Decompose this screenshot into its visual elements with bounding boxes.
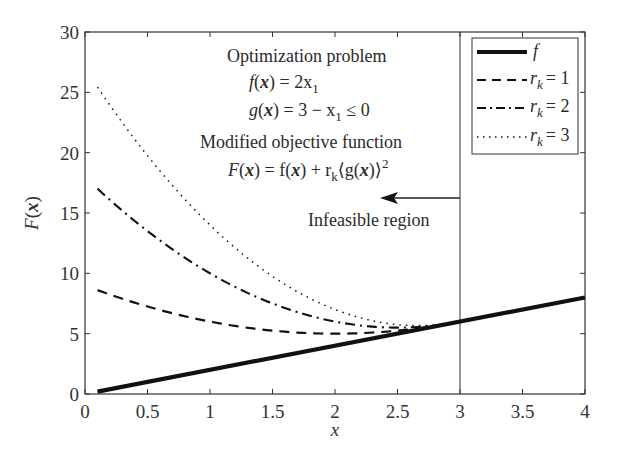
x-tick-label: 1 — [205, 401, 215, 422]
annotation-title: Optimization problem — [227, 46, 386, 66]
x-tick-label: 0 — [80, 401, 90, 422]
annotation-F-equation: F(x) = f(x) + rk⟨g(x)⟩2 — [227, 156, 388, 184]
chart: 00.511.522.533.54 051015202530 x F(x) Op… — [0, 0, 619, 453]
annotation-modified-title: Modified objective function — [200, 132, 402, 152]
y-tick-labels: 051015202530 — [60, 22, 79, 405]
y-tick-label: 10 — [60, 263, 79, 284]
annotation-f-equation: f(x) = 2x1 — [249, 72, 319, 96]
y-tick-label: 25 — [60, 82, 79, 103]
x-tick-label: 1.5 — [261, 401, 285, 422]
y-axis-label: F(x) — [21, 196, 43, 231]
y-axis-label-F: F — [21, 218, 42, 231]
y-tick-label: 0 — [70, 384, 80, 405]
series-f — [98, 297, 586, 391]
x-tick-label: 0.5 — [136, 401, 160, 422]
annotation-g-equation: g(x) = 3 − x1 ≤ 0 — [249, 100, 370, 124]
x-tick-label: 4 — [580, 401, 590, 422]
x-tick-label: 2.5 — [386, 401, 410, 422]
y-axis-label-x: x — [21, 202, 42, 213]
y-tick-label: 20 — [60, 143, 79, 164]
annotation-block: Optimization problem f(x) = 2x1 g(x) = 3… — [200, 46, 460, 230]
x-tick-label: 3 — [455, 401, 465, 422]
infeasible-region-label: Infeasible region — [308, 210, 429, 230]
y-tick-label: 15 — [60, 203, 79, 224]
y-tick-label: 5 — [70, 324, 80, 345]
x-axis-label: x — [330, 419, 340, 440]
y-tick-label: 30 — [60, 22, 79, 43]
svg-text:F(x): F(x) — [21, 196, 43, 231]
series-r-k-3 — [98, 87, 461, 325]
legend: f rk= 1 rk= 2 rk= 3 — [472, 38, 578, 154]
x-tick-label: 3.5 — [511, 401, 535, 422]
